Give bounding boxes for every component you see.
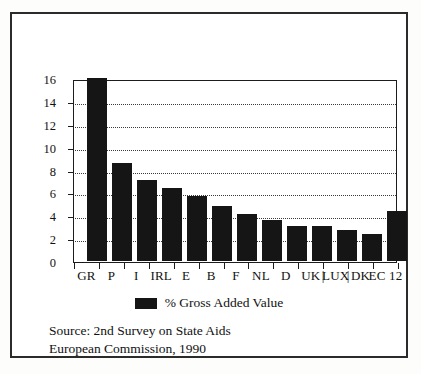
y-tick-label-10: 10 <box>30 142 56 155</box>
source-line-1: Source: 2nd Survey on State Aids <box>49 322 231 340</box>
y-tick-label-8: 8 <box>30 165 56 178</box>
bar-lux <box>337 230 357 261</box>
x-label-separator-after-lux: | <box>347 268 350 284</box>
x-tick-label-p: P <box>108 268 115 284</box>
legend-label: % Gross Added Value <box>165 295 284 311</box>
x-tick-label-dk: DK <box>351 268 370 284</box>
x-tick-label-b: B <box>207 268 216 284</box>
bar-series <box>87 81 395 261</box>
figure-page: 0246810121416 GRPIIRLEBFNLDUK|LUX|DKEC 1… <box>0 0 421 374</box>
bar-nl <box>262 220 282 261</box>
bar-d <box>287 226 307 261</box>
y-axis-line <box>73 80 74 263</box>
bar-f <box>237 214 257 261</box>
bar-e <box>187 196 207 261</box>
y-tick-label-16: 16 <box>30 74 56 87</box>
bar-dk <box>362 234 382 261</box>
x-axis-tick-labels: GRPIIRLEBFNLDUK|LUX|DKEC 12 <box>60 268 400 286</box>
bar-i <box>137 180 157 261</box>
plot-area: 0246810121416 <box>60 80 397 263</box>
bar-irl <box>162 188 182 261</box>
x-tick-label-lux: LUX <box>322 268 349 284</box>
y-tick-label-12: 12 <box>30 120 56 133</box>
x-tick-label-f: F <box>232 268 239 284</box>
figure-border: 0246810121416 GRPIIRLEBFNLDUK|LUX|DKEC 1… <box>10 12 408 358</box>
bar-b <box>212 206 232 261</box>
x-tick-label-nl: NL <box>252 268 270 284</box>
x-tick-label-gr: GR <box>77 268 95 284</box>
x-tick-label-d: D <box>281 268 291 284</box>
legend: % Gross Added Value <box>12 295 406 311</box>
legend-swatch-icon <box>135 298 157 309</box>
x-tick-label-e: E <box>182 268 190 284</box>
bar-uk <box>312 226 332 261</box>
y-tick-label-4: 4 <box>30 211 56 224</box>
y-tick-label-14: 14 <box>30 97 56 110</box>
y-tick-label-2: 2 <box>30 234 56 247</box>
x-tick-label-ec-12: EC 12 <box>369 268 403 284</box>
x-tick-label-i: I <box>134 268 139 284</box>
source-line-2: European Commission, 1990 <box>49 340 231 358</box>
y-tick-label-6: 6 <box>30 188 56 201</box>
x-tick-label-irl: IRL <box>150 268 172 284</box>
bar-p <box>112 163 132 261</box>
source-note: Source: 2nd Survey on State Aids Europea… <box>49 322 231 358</box>
plot-frame <box>73 80 397 263</box>
x-tick-label-uk: UK <box>301 268 320 284</box>
y-tick-label-0: 0 <box>30 257 56 270</box>
bar-ec-12 <box>387 211 407 261</box>
bar-gr <box>87 78 107 261</box>
